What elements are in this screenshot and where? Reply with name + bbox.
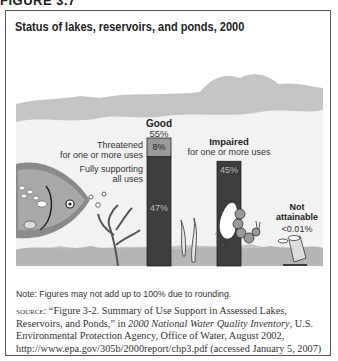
impaired-value-label: 45% [220, 165, 238, 175]
fully-value-label: 47% [150, 203, 168, 213]
source-title: 2000 National Water Quality Inventory [128, 318, 290, 329]
na-title-2: attainable [276, 212, 318, 222]
bar-not-attainable [283, 264, 307, 266]
good-total: 55% [149, 128, 169, 139]
chart-note: Note: Figures may not add up to 100% due… [16, 288, 231, 299]
source-label: source: [16, 306, 46, 316]
fully-label-1: Fully supporting [79, 164, 143, 174]
threatened-value-label: 8% [152, 142, 165, 152]
na-title-1: Not [290, 202, 305, 212]
na-value-label: <0.01% [282, 224, 313, 234]
impaired-sub: for one or more uses [187, 147, 271, 157]
impaired-title: Impaired [209, 136, 249, 147]
threatened-label-1: Threatened [97, 140, 143, 150]
fully-label-2: all uses [112, 174, 143, 184]
threatened-label-2: for one or more uses [60, 150, 144, 160]
source-citation: source: “Figure 3-2. Summary of Use Supp… [16, 305, 328, 355]
